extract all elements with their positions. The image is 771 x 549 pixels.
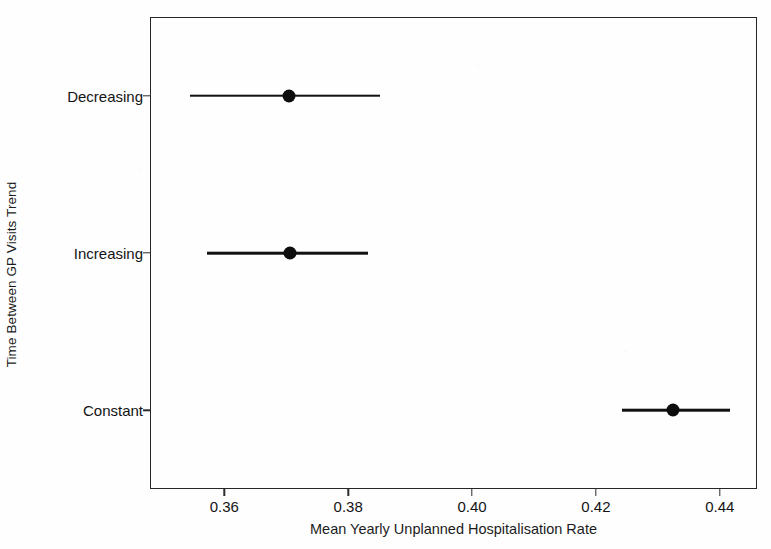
x-axis-tick-label: 0.44: [705, 498, 734, 515]
x-axis-title: Mean Yearly Unplanned Hospitalisation Ra…: [150, 521, 757, 537]
y-axis-tick-label: Constant: [21, 402, 143, 419]
x-axis-tick-mark: [719, 489, 720, 496]
x-axis-tick-mark: [348, 489, 349, 496]
y-axis-tick-labels: DecreasingIncreasingConstant: [0, 0, 143, 549]
x-axis-tick-mark: [595, 489, 596, 496]
y-axis-tick-label: Increasing: [21, 245, 143, 262]
y-axis-tick-label: Decreasing: [21, 87, 143, 104]
data-point-marker: [283, 247, 296, 260]
x-axis-tick-label: 0.40: [457, 498, 486, 515]
y-axis-tick-mark: [143, 410, 150, 411]
data-point-marker: [283, 89, 296, 102]
x-axis-tick-mark: [224, 489, 225, 496]
x-axis-tick-label: 0.42: [581, 498, 610, 515]
plot-area: [150, 17, 757, 489]
y-axis-tick-mark: [143, 252, 150, 253]
x-axis-tick-mark: [471, 489, 472, 496]
y-axis-tick-mark: [143, 95, 150, 96]
forest-plot-figure: Time Between GP Visits Trend DecreasingI…: [0, 0, 771, 549]
data-point-marker: [667, 404, 680, 417]
x-axis-tick-label: 0.36: [210, 498, 239, 515]
x-axis-tick-label: 0.38: [334, 498, 363, 515]
